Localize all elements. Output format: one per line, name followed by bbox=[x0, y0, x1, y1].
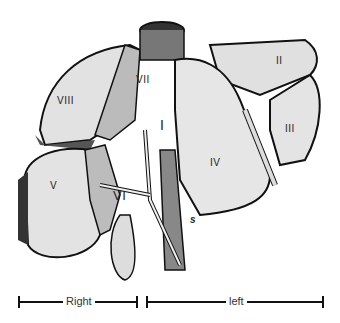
label-segment-viii: VIII bbox=[57, 95, 74, 106]
liver-illustration bbox=[0, 0, 340, 290]
gallbladder bbox=[111, 215, 135, 280]
label-segment-vi: VI bbox=[113, 188, 126, 203]
annotation-s: s bbox=[190, 214, 196, 225]
scale-left-label: left bbox=[226, 295, 247, 307]
scale-right-label: Right bbox=[63, 295, 95, 307]
label-segment-i: I bbox=[160, 117, 164, 133]
label-segment-ii: II bbox=[276, 55, 283, 66]
label-segment-iii: III bbox=[285, 123, 295, 134]
scale-right: Right bbox=[18, 296, 138, 308]
scale-left: left bbox=[146, 296, 324, 308]
label-segment-v: V bbox=[50, 180, 57, 191]
label-segment-iv: IV bbox=[210, 157, 220, 168]
label-segment-vii: VII bbox=[136, 74, 150, 85]
